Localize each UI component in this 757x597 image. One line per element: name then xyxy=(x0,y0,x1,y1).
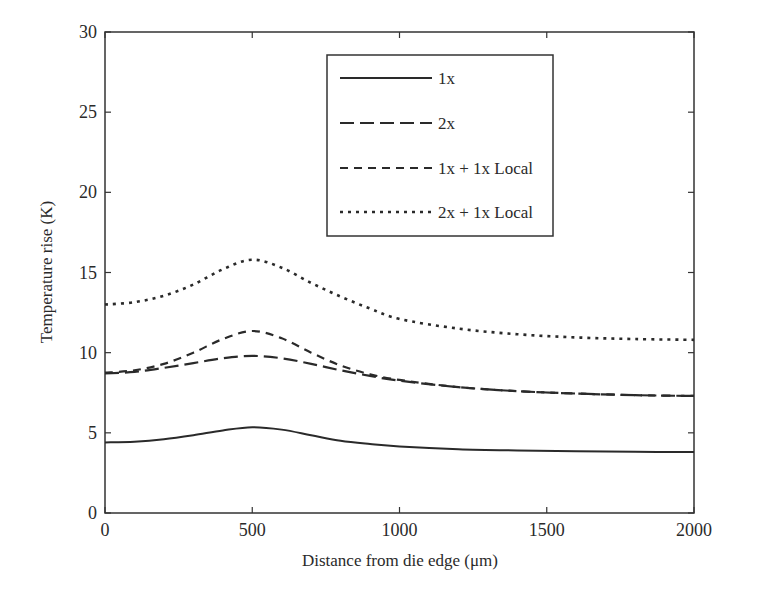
series-line-3 xyxy=(105,260,694,340)
legend-label-1: 2x xyxy=(438,114,456,133)
y-tick-label: 15 xyxy=(79,263,97,283)
legend-label-3: 2x + 1x Local xyxy=(438,203,533,222)
x-tick-label: 2000 xyxy=(676,520,712,540)
series-line-0 xyxy=(105,427,694,452)
y-tick-label: 25 xyxy=(79,102,97,122)
legend: 1x2x1x + 1x Local2x + 1x Local xyxy=(327,55,553,236)
temperature-chart: 0500100015002000051015202530 1x2x1x + 1x… xyxy=(0,0,757,597)
legend-label-2: 1x + 1x Local xyxy=(438,159,533,178)
x-tick-label: 0 xyxy=(101,520,110,540)
y-tick-label: 20 xyxy=(79,182,97,202)
y-tick-label: 0 xyxy=(88,503,97,523)
x-axis-title: Distance from die edge (μm) xyxy=(302,551,498,570)
x-tick-label: 1000 xyxy=(382,520,418,540)
data-series xyxy=(105,260,694,452)
x-tick-label: 500 xyxy=(239,520,266,540)
y-tick-label: 5 xyxy=(88,423,97,443)
series-line-1 xyxy=(105,356,694,396)
legend-label-0: 1x xyxy=(438,69,456,88)
y-tick-label: 10 xyxy=(79,343,97,363)
y-axis-title: Temperature rise (K) xyxy=(37,201,56,343)
y-tick-label: 30 xyxy=(79,22,97,42)
x-tick-label: 1500 xyxy=(529,520,565,540)
